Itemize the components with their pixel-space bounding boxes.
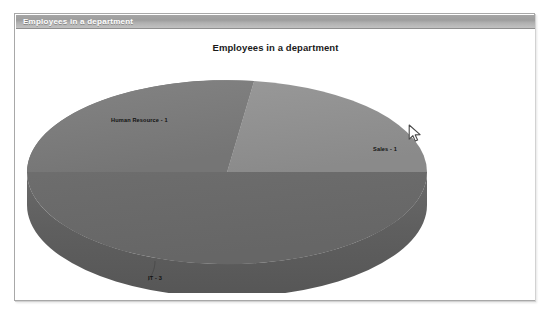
window-title: Employees in a department [16,17,133,26]
pie-chart [16,53,535,293]
pie-slice-human-resource[interactable] [27,80,254,172]
chart-window: Employees in a department Employees in a… [14,13,535,301]
window-titlebar[interactable]: Employees in a department [16,15,535,29]
pie-label-it: IT - 3 [148,275,162,281]
chart-canvas[interactable]: Employees in a department [16,29,535,300]
pie-chart-svg [16,53,535,293]
pie-label-human-resource: Human Resource - 1 [111,117,168,123]
pie-slice-sales[interactable] [227,81,427,172]
pie-top-face [27,80,427,264]
chart-title: Employees in a department [16,42,535,53]
pie-label-sales: Sales - 1 [373,146,397,152]
